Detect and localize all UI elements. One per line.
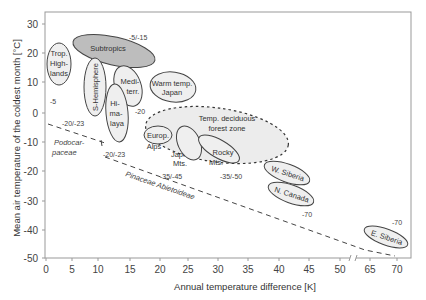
region-value: -35/-45 — [160, 173, 182, 180]
region-label: Japan — [162, 88, 182, 97]
x-tick-label: 5 — [69, 264, 75, 275]
x-tick-label: 0 — [43, 264, 49, 275]
region-label: High- — [50, 59, 68, 68]
x-tick-label: 40 — [273, 264, 285, 275]
podocarpaceae-label: paceae — [51, 148, 77, 157]
x-tick-label: 25 — [182, 264, 194, 275]
climate-diagram: 30 20 10 0 -10 -20 -30 -40 -50 0 5 10 15… — [0, 0, 426, 300]
podocarpaceae-value: -20/-23 — [62, 120, 84, 127]
region-value: -70 — [302, 211, 312, 218]
region-label: Warm temp. — [152, 79, 193, 88]
region-label: Hi- — [110, 99, 120, 108]
x-axis-title: Annual temperature difference [K] — [174, 281, 316, 292]
pinaceae-line — [105, 157, 395, 256]
region-label: forest zone — [208, 124, 245, 133]
region-value: -20 — [135, 108, 145, 115]
region-value: -5/-15 — [129, 34, 147, 41]
x-tick-label: 30 — [212, 264, 224, 275]
y-tick-label: -40 — [24, 225, 39, 236]
region-label: Subtropics — [90, 44, 126, 53]
region-label: Medi- — [121, 77, 140, 86]
y-tick-label: -20 — [24, 166, 39, 177]
region-value: -5 — [50, 98, 56, 105]
region-value: -70 — [392, 219, 402, 226]
x-tick-label: 20 — [154, 264, 166, 275]
region-label: Temp. deciduous — [199, 114, 256, 123]
region-label: Mts. — [209, 158, 223, 167]
region-label: ma- — [110, 109, 123, 118]
region-label: Mts. — [173, 159, 187, 168]
y-tick-label: 10 — [27, 77, 39, 88]
podocarpaceae-label: Podocar- — [54, 138, 85, 147]
region-value: -35/-50 — [220, 173, 242, 180]
y-tick-label: -50 — [24, 253, 39, 264]
x-tick-label: 15 — [124, 264, 136, 275]
y-axis-title: Mean air temperature of the coldest mont… — [11, 39, 22, 237]
region-label: Europ. — [147, 131, 169, 140]
region-label: Jap. — [171, 150, 185, 159]
x-tick-label: 10 — [92, 264, 104, 275]
x-tick-label: 65 — [364, 264, 376, 275]
region-label: laya — [110, 119, 125, 128]
region-value: -20/-23 — [103, 151, 125, 158]
x-tick-label: 45 — [303, 264, 315, 275]
region-label: Alps — [147, 142, 162, 151]
region-label: terr. — [127, 87, 140, 96]
region-label: S-Hemisphere — [91, 63, 100, 111]
x-tick-label: 70 — [391, 264, 403, 275]
region-label: lands — [50, 69, 68, 78]
y-tick-label: -30 — [24, 196, 39, 207]
y-tick-label: 30 — [27, 19, 39, 30]
y-axis: 30 20 10 0 -10 -20 -30 -40 -50 — [24, 19, 45, 264]
y-tick-label: -10 — [24, 137, 39, 148]
region-label: Trop. — [50, 49, 67, 58]
x-tick-label: 50 — [334, 264, 346, 275]
region-label: Rocky — [213, 148, 234, 157]
x-tick-label: 35 — [242, 264, 254, 275]
y-tick-label: 20 — [27, 48, 39, 59]
y-tick-label: 0 — [32, 108, 38, 119]
